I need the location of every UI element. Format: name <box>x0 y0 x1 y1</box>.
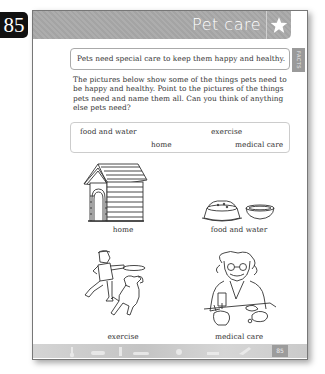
fact-box: Pets need special care to keep them happ… <box>70 48 290 70</box>
word-home: home <box>151 140 172 149</box>
boy-frisbee-dog-icon <box>80 249 160 329</box>
caption-medical-care: medical care <box>199 332 279 341</box>
instructions-text: The pictures below show some of the thin… <box>73 75 293 113</box>
caption-home: home <box>105 225 141 234</box>
worksheet-page: Pet care FACTS Pets need special care to… <box>32 10 308 360</box>
page-number-badge: 85 <box>0 12 28 38</box>
page-header: Pet care <box>33 11 291 39</box>
doghouse-icon <box>80 158 150 224</box>
word-food-and-water: food and water <box>80 127 137 136</box>
star-icon <box>266 11 291 39</box>
caption-exercise: exercise <box>101 332 145 341</box>
vet-icon <box>200 251 280 329</box>
page-footer: 85 <box>33 344 307 358</box>
facts-tab: FACTS <box>292 48 305 72</box>
word-box: food and water exercise home medical car… <box>70 122 290 153</box>
footer-decoration-icons <box>69 344 269 358</box>
caption-food-and-water: food and water <box>199 225 279 234</box>
word-exercise: exercise <box>211 127 242 136</box>
word-medical-care: medical care <box>235 140 283 149</box>
footer-page-number: 85 <box>272 345 288 357</box>
pet-bowls-icon <box>200 199 276 223</box>
page-title: Pet care <box>192 15 261 34</box>
